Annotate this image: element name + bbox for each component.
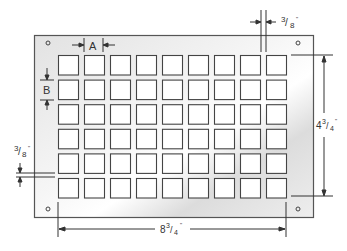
square-opening bbox=[137, 105, 157, 125]
square-opening bbox=[241, 179, 261, 199]
svg-text:": " bbox=[180, 222, 182, 228]
square-opening bbox=[241, 154, 261, 174]
svg-text:/: / bbox=[170, 225, 173, 235]
square-opening bbox=[189, 105, 209, 125]
square-opening bbox=[85, 154, 105, 174]
label-left-spacing: 3 / 8 " bbox=[14, 144, 30, 159]
square-opening bbox=[267, 80, 287, 100]
square-opening bbox=[241, 105, 261, 125]
square-opening bbox=[215, 56, 235, 76]
square-opening bbox=[137, 80, 157, 100]
square-opening bbox=[215, 80, 235, 100]
square-opening bbox=[137, 56, 157, 76]
label-a: A bbox=[89, 40, 97, 52]
square-opening bbox=[215, 154, 235, 174]
label-top-spacing: 3 / 8 " bbox=[281, 15, 298, 30]
square-opening bbox=[59, 80, 79, 100]
svg-text:/: / bbox=[18, 146, 21, 157]
svg-text:": " bbox=[335, 118, 337, 124]
square-opening bbox=[111, 179, 131, 199]
svg-text:4: 4 bbox=[330, 125, 334, 132]
label-width: 8 3 / 4 " bbox=[160, 222, 182, 236]
square-opening bbox=[111, 129, 131, 149]
square-opening bbox=[241, 56, 261, 76]
svg-text:/: / bbox=[285, 17, 288, 28]
square-opening bbox=[241, 80, 261, 100]
square-opening bbox=[267, 56, 287, 76]
square-opening bbox=[189, 56, 209, 76]
square-opening bbox=[241, 129, 261, 149]
square-opening bbox=[267, 105, 287, 125]
square-opening bbox=[189, 129, 209, 149]
square-opening bbox=[111, 154, 131, 174]
square-opening bbox=[163, 80, 183, 100]
square-opening bbox=[163, 129, 183, 149]
square-opening bbox=[163, 56, 183, 76]
square-opening bbox=[189, 80, 209, 100]
square-opening bbox=[267, 154, 287, 174]
square-opening bbox=[59, 154, 79, 174]
square-opening bbox=[137, 179, 157, 199]
square-opening bbox=[111, 105, 131, 125]
svg-text:": " bbox=[28, 145, 30, 151]
svg-text:/: / bbox=[326, 121, 329, 131]
svg-text:8: 8 bbox=[22, 150, 27, 159]
square-opening bbox=[189, 179, 209, 199]
square-opening bbox=[85, 129, 105, 149]
square-opening bbox=[215, 105, 235, 125]
svg-text:4: 4 bbox=[174, 229, 178, 236]
square-opening bbox=[85, 80, 105, 100]
square-opening bbox=[163, 154, 183, 174]
label-b: B bbox=[43, 84, 50, 96]
svg-text:8: 8 bbox=[290, 21, 295, 30]
square-opening bbox=[111, 56, 131, 76]
label-height: 4 3 / 4 " bbox=[316, 118, 337, 132]
square-opening bbox=[267, 179, 287, 199]
square-opening bbox=[85, 105, 105, 125]
square-opening bbox=[59, 179, 79, 199]
plate-drawing: A B 3 / 8 " 3 / 8 " bbox=[0, 0, 347, 251]
square-opening bbox=[137, 154, 157, 174]
square-opening bbox=[137, 129, 157, 149]
square-opening bbox=[85, 179, 105, 199]
square-opening bbox=[267, 129, 287, 149]
square-opening bbox=[163, 179, 183, 199]
square-opening bbox=[59, 56, 79, 76]
svg-text:": " bbox=[296, 16, 298, 22]
square-opening bbox=[215, 179, 235, 199]
square-opening bbox=[59, 129, 79, 149]
square-opening bbox=[163, 105, 183, 125]
square-opening bbox=[59, 105, 79, 125]
square-opening bbox=[189, 154, 209, 174]
square-opening bbox=[215, 129, 235, 149]
square-opening bbox=[85, 56, 105, 76]
square-opening bbox=[111, 80, 131, 100]
